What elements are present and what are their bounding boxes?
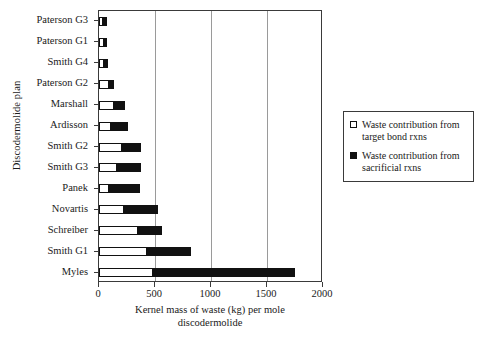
legend-item-target-bond: Waste contribution from target bond rxns <box>350 119 466 143</box>
bar-segment-target-bond <box>99 163 117 172</box>
y-axis-category-label: Novartis <box>0 203 88 214</box>
y-axis-category-labels: Paterson G3Paterson G1Smith G4Paterson G… <box>0 10 94 282</box>
bar-marshall <box>99 101 323 110</box>
bar-ardisson <box>99 122 323 131</box>
bar-paterson-g3 <box>99 17 323 26</box>
y-axis-category-label: Panek <box>0 182 88 193</box>
legend-label-line2: target bond rxns <box>362 131 427 142</box>
bar-segment-target-bond <box>99 226 138 235</box>
bar-segment-target-bond <box>99 143 122 152</box>
y-axis-category-label: Paterson G2 <box>0 77 88 88</box>
y-axis-category-label: Marshall <box>0 98 88 109</box>
bar-schreiber <box>99 226 323 235</box>
x-axis-tick-labels: 0500100015002000 <box>0 288 420 302</box>
legend-label-sacrificial: Waste contribution from sacrificial rxns <box>362 150 460 174</box>
bar-paterson-g2 <box>99 80 323 89</box>
bar-segment-target-bond <box>99 184 109 193</box>
y-axis-category-label: Paterson G1 <box>0 35 88 46</box>
bar-novartis <box>99 205 323 214</box>
bar-segment-target-bond <box>99 205 124 214</box>
plot-area <box>98 10 322 282</box>
bar-panek <box>99 184 323 193</box>
bar-segment-sacrificial <box>104 59 108 68</box>
x-axis-tick <box>210 282 211 287</box>
bar-segment-sacrificial <box>103 17 107 26</box>
y-axis-category-label: Smith G3 <box>0 161 88 172</box>
x-axis-tick <box>322 282 323 287</box>
x-axis-title-line2: discodermolide <box>60 316 360 329</box>
legend-swatch-black-icon <box>350 152 357 159</box>
y-axis-category-label: Smith G1 <box>0 245 88 256</box>
y-axis-category-label: Smith G4 <box>0 56 88 67</box>
legend-label-line1: Waste contribution from <box>362 119 460 130</box>
legend-label-target-bond: Waste contribution from target bond rxns <box>362 119 460 143</box>
x-axis-tick-label: 1000 <box>190 288 230 299</box>
bar-smith-g2 <box>99 143 323 152</box>
bar-myles <box>99 268 323 277</box>
bar-segment-target-bond <box>99 80 109 89</box>
bar-segment-sacrificial <box>138 226 162 235</box>
bar-smith-g4 <box>99 59 323 68</box>
bar-segment-sacrificial <box>153 268 295 277</box>
x-axis-tick <box>98 282 99 287</box>
bar-segment-sacrificial <box>109 184 140 193</box>
x-axis-tick <box>154 282 155 287</box>
bar-segment-sacrificial <box>124 205 158 214</box>
bar-smith-g1 <box>99 247 323 256</box>
chart-legend: Waste contribution from target bond rxns… <box>343 111 474 182</box>
y-axis-category-label: Paterson G3 <box>0 14 88 25</box>
x-axis-title-line1: Kernel mass of waste (kg) per mole <box>60 303 360 316</box>
bar-segment-sacrificial <box>117 163 141 172</box>
x-axis-tick-label: 2000 <box>302 288 342 299</box>
bar-segment-target-bond <box>99 268 153 277</box>
legend-item-sacrificial: Waste contribution from sacrificial rxns <box>350 150 466 174</box>
bar-segment-sacrificial <box>147 247 191 256</box>
bar-segment-sacrificial <box>109 80 113 89</box>
y-axis-category-label: Ardisson <box>0 119 88 130</box>
x-axis-tick-label: 500 <box>134 288 174 299</box>
bar-segment-target-bond <box>99 122 111 131</box>
bar-paterson-g1 <box>99 38 323 47</box>
chart-figure: Discodermolide plan Paterson G3Paterson … <box>0 0 484 337</box>
bar-segment-sacrificial <box>114 101 125 110</box>
x-axis-tick-label: 0 <box>78 288 118 299</box>
x-axis-tick-label: 1500 <box>246 288 286 299</box>
bar-segment-target-bond <box>99 101 114 110</box>
bar-segment-sacrificial <box>122 143 141 152</box>
x-axis-title: Kernel mass of waste (kg) per mole disco… <box>60 303 360 329</box>
legend-swatch-white-icon <box>350 121 357 128</box>
x-axis-tick <box>266 282 267 287</box>
y-axis-category-label: Myles <box>0 266 88 277</box>
legend-label-line2: sacrificial rxns <box>362 162 421 173</box>
bar-smith-g3 <box>99 163 323 172</box>
bar-segment-target-bond <box>99 247 147 256</box>
bar-segment-sacrificial <box>111 122 127 131</box>
y-axis-category-label: Schreiber <box>0 224 88 235</box>
y-axis-category-label: Smith G2 <box>0 140 88 151</box>
legend-label-line1: Waste contribution from <box>362 150 460 161</box>
bar-segment-sacrificial <box>104 38 107 47</box>
